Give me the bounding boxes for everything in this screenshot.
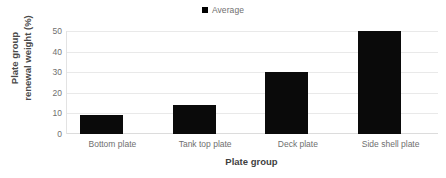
bar <box>358 31 401 134</box>
y-axis-title: Plate group renewal weight (%) <box>6 0 36 118</box>
x-axis-tick-label: Tank top plate <box>159 138 252 150</box>
y-axis-tick-40: 40 <box>38 47 62 56</box>
y-axis-tick-labels: 01020304050 <box>38 31 62 134</box>
plot-area <box>66 31 437 134</box>
x-axis-tick-label: Bottom plate <box>66 138 159 150</box>
x-axis-tick-labels: Bottom plateTank top plateDeck plateSide… <box>66 138 437 151</box>
x-axis-tick-label: Side shell plate <box>344 138 437 150</box>
bar-series-average <box>67 31 438 134</box>
y-axis-tick-0: 0 <box>38 130 62 139</box>
y-axis-tick-20: 20 <box>38 89 62 98</box>
bar <box>265 72 308 134</box>
y-axis-title-line-1: Plate group <box>8 32 21 84</box>
legend-square-marker-icon <box>202 7 208 13</box>
legend-item-label: Average <box>212 6 244 15</box>
x-axis-tick-label: Deck plate <box>252 138 345 150</box>
bar <box>173 105 216 134</box>
y-axis-title-line-2: renewal weight (%) <box>21 15 34 101</box>
y-axis-tick-50: 50 <box>38 27 62 36</box>
chart-legend: Average <box>0 3 446 17</box>
x-axis-title: Plate group <box>66 156 437 168</box>
bar-chart: Average Plate group renewal weight (%) 0… <box>0 0 446 178</box>
bar <box>80 115 123 134</box>
y-axis-tick-30: 30 <box>38 68 62 77</box>
y-axis-tick-10: 10 <box>38 109 62 118</box>
